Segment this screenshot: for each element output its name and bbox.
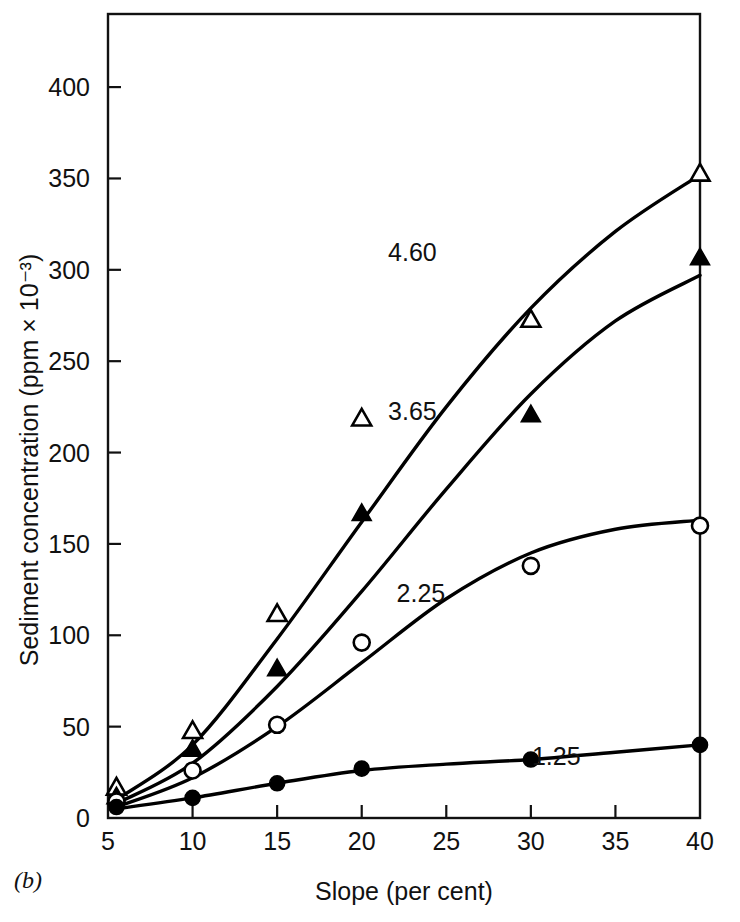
x-tick-label-15: 15 bbox=[263, 827, 291, 855]
y-axis-title: Sediment concentration (ppm × 10⁻³) bbox=[15, 254, 43, 667]
marker-filled-circle bbox=[693, 737, 708, 752]
panel-label: (b) bbox=[14, 867, 42, 893]
marker-filled-triangle bbox=[268, 659, 287, 676]
y-tick-label-250: 250 bbox=[48, 347, 90, 375]
curve-label-2.25: 2.25 bbox=[397, 579, 446, 607]
x-axis-ticks bbox=[193, 805, 616, 818]
marker-open-triangle bbox=[183, 721, 202, 738]
figure-container: 050100150200250300350400 510152025303540… bbox=[0, 0, 740, 922]
marker-filled-triangle bbox=[691, 248, 710, 265]
y-axis-ticks bbox=[108, 87, 121, 727]
x-tick-label-20: 20 bbox=[348, 827, 376, 855]
y-tick-label-400: 400 bbox=[48, 73, 90, 101]
marker-open-circle bbox=[692, 518, 708, 534]
x-tick-label-35: 35 bbox=[602, 827, 630, 855]
marker-open-circle bbox=[523, 558, 539, 574]
marker-filled-circle bbox=[109, 800, 124, 815]
x-tick-label-10: 10 bbox=[179, 827, 207, 855]
curve-label-4.60: 4.60 bbox=[388, 238, 437, 266]
y-tick-label-300: 300 bbox=[48, 256, 90, 284]
curve-4.60 bbox=[116, 175, 700, 800]
sediment-concentration-chart: 050100150200250300350400 510152025303540… bbox=[0, 0, 740, 922]
y-tick-label-0: 0 bbox=[76, 804, 90, 832]
y-tick-label-200: 200 bbox=[48, 439, 90, 467]
marker-open-triangle bbox=[691, 164, 710, 181]
curve-labels: 4.603.652.251.25 bbox=[388, 238, 580, 770]
curve-3.65 bbox=[116, 275, 700, 803]
x-tick-label-5: 5 bbox=[101, 827, 115, 855]
curve-label-1.25: 1.25 bbox=[532, 742, 581, 770]
marker-filled-triangle bbox=[183, 740, 202, 757]
marker-open-triangle bbox=[521, 310, 540, 327]
marker-open-triangle bbox=[268, 604, 287, 621]
y-tick-label-100: 100 bbox=[48, 621, 90, 649]
data-curves bbox=[116, 175, 700, 809]
marker-filled-circle bbox=[354, 761, 369, 776]
marker-filled-circle bbox=[270, 776, 285, 791]
marker-filled-triangle bbox=[521, 405, 540, 422]
x-axis-tick-labels: 510152025303540 bbox=[101, 827, 714, 855]
x-tick-label-25: 25 bbox=[432, 827, 460, 855]
curve-label-3.65: 3.65 bbox=[388, 397, 437, 425]
marker-open-triangle bbox=[352, 409, 371, 426]
x-axis-title: Slope (per cent) bbox=[315, 877, 493, 905]
y-tick-label-350: 350 bbox=[48, 164, 90, 192]
y-tick-label-150: 150 bbox=[48, 530, 90, 558]
y-tick-label-50: 50 bbox=[62, 713, 90, 741]
curve-2.25 bbox=[116, 520, 700, 807]
x-tick-label-40: 40 bbox=[686, 827, 714, 855]
marker-open-circle bbox=[185, 762, 201, 778]
marker-open-circle bbox=[354, 635, 370, 651]
marker-filled-circle bbox=[185, 790, 200, 805]
y-axis-tick-labels: 050100150200250300350400 bbox=[48, 73, 90, 832]
marker-open-circle bbox=[269, 717, 285, 733]
x-tick-label-30: 30 bbox=[517, 827, 545, 855]
